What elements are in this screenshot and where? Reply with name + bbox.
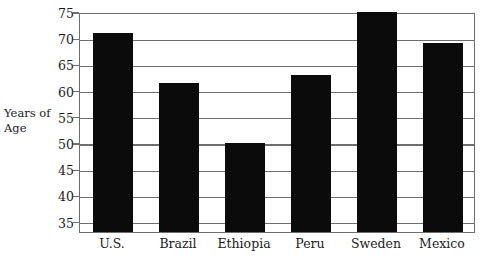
y-axis-tick-labels: 757065605550454035 xyxy=(52,13,74,233)
y-axis-tick-label: 40 xyxy=(58,189,74,204)
y-axis-tick-label: 50 xyxy=(58,136,74,151)
y-axis-tick-label: 60 xyxy=(58,84,74,99)
bar-series xyxy=(80,14,474,232)
bar xyxy=(93,33,133,232)
bar-chart: Years of Age 757065605550454035 U.S.Braz… xyxy=(0,0,488,264)
plot-area xyxy=(79,13,475,233)
bar xyxy=(225,143,265,232)
bar xyxy=(291,75,331,232)
x-axis-category-label: Mexico xyxy=(419,236,465,251)
bar xyxy=(357,12,397,232)
y-axis-tick-label: 65 xyxy=(58,58,74,73)
bar xyxy=(159,83,199,232)
y-axis-tick-label: 75 xyxy=(58,6,74,21)
x-axis-category-label: Ethiopia xyxy=(217,236,270,251)
y-axis-tick-label: 70 xyxy=(58,32,74,47)
y-axis-tick-label: 55 xyxy=(58,110,74,125)
y-axis-tick-label: 35 xyxy=(58,215,74,230)
x-axis-category-label: U.S. xyxy=(99,236,124,251)
y-axis-tick-label: 45 xyxy=(58,163,74,178)
x-axis-category-label: Brazil xyxy=(159,236,196,251)
bar xyxy=(423,43,463,232)
x-axis-category-label: Peru xyxy=(295,236,324,251)
x-axis-category-labels: U.S.BrazilEthiopiaPeruSwedenMexico xyxy=(79,236,475,258)
x-axis-category-label: Sweden xyxy=(351,236,401,251)
